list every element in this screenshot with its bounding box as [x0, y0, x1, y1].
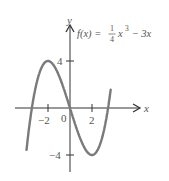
function-graph: −2 0 2 4 −4 x y f(x) = 1 4 x 3 − 3x [0, 0, 169, 181]
x-tick-label-0: 0 [61, 112, 67, 124]
x-tick-label-neg2: −2 [38, 114, 50, 126]
function-label-prefix: f(x) = [77, 28, 104, 40]
y-axis-label: y [66, 14, 72, 26]
function-label: f(x) = 1 4 x 3 − 3x [77, 24, 152, 44]
function-label-suffix: − 3x [129, 28, 152, 39]
x-tick-label-2: 2 [89, 114, 95, 126]
fraction-numerator: 1 [110, 24, 114, 33]
y-tick-label-neg4: −4 [49, 149, 61, 161]
function-label-x: x [117, 28, 123, 39]
fraction-denominator: 4 [110, 35, 114, 44]
y-tick-label-4: 4 [57, 55, 63, 67]
x-axis-label: x [143, 102, 149, 114]
